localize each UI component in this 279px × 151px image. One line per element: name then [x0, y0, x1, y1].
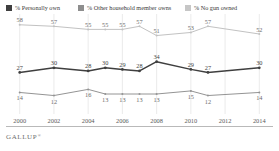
- legend-item-label: % Other household member owns: [87, 4, 171, 12]
- x-axis-tick-label: 2012: [219, 117, 232, 124]
- series-data-point[interactable]: [87, 28, 89, 30]
- data-point-value-label: 55: [119, 21, 125, 28]
- data-point-value-label: 57: [136, 18, 142, 25]
- series-data-point[interactable]: [190, 31, 192, 33]
- series-data-point[interactable]: [104, 28, 106, 30]
- x-axis-tick-label: 2004: [82, 117, 95, 124]
- x-axis-tick-label: 2008: [150, 117, 163, 124]
- square-swatch-icon: [185, 5, 191, 11]
- data-point-value-label: 57: [51, 18, 57, 25]
- chart-footer: GALLUP ®: [6, 133, 41, 145]
- series-data-point[interactable]: [87, 88, 89, 90]
- data-point-value-label: 34: [153, 53, 159, 60]
- data-point-value-label: 51: [153, 27, 159, 34]
- legend-item-personally-own[interactable]: % Personally own: [6, 2, 60, 14]
- data-point-value-label: 15: [188, 93, 194, 100]
- gallup-logo: GALLUP: [6, 133, 37, 141]
- data-point-value-label: 27: [17, 64, 23, 71]
- series-data-point[interactable]: [53, 95, 55, 97]
- series-data-point[interactable]: [104, 67, 107, 70]
- data-point-value-label: 12: [51, 98, 57, 105]
- data-point-value-label: 12: [205, 98, 211, 105]
- data-point-value-label: 55: [102, 21, 108, 28]
- data-point-value-label: 14: [17, 94, 23, 101]
- series-data-point[interactable]: [19, 24, 21, 26]
- x-axis-line: [0, 126, 279, 128]
- data-point-value-label: 57: [205, 18, 211, 25]
- gun-ownership-line-chart: % Personally own % Other household membe…: [0, 0, 279, 151]
- series-data-point[interactable]: [121, 93, 123, 95]
- series-data-point[interactable]: [207, 95, 209, 97]
- x-axis-tick-label: 2010: [184, 117, 197, 124]
- data-point-value-label: 30: [102, 59, 108, 66]
- series-data-point[interactable]: [18, 71, 21, 74]
- data-point-value-label: 13: [102, 96, 108, 103]
- data-point-value-label: 13: [153, 96, 159, 103]
- data-point-value-label: 30: [256, 59, 262, 66]
- legend-item-label: % Personally own: [15, 4, 60, 12]
- x-axis-tick-label: 2000: [13, 117, 26, 124]
- data-point-value-label: 14: [256, 94, 262, 101]
- series-data-point[interactable]: [53, 25, 55, 27]
- data-point-value-label: 28: [136, 62, 142, 69]
- series-data-point[interactable]: [258, 33, 260, 35]
- legend-item-other-household-member-owns[interactable]: % Other household member owns: [78, 2, 171, 14]
- trademark-icon: ®: [38, 133, 41, 139]
- series-data-point[interactable]: [155, 60, 158, 63]
- series-data-point[interactable]: [207, 71, 210, 74]
- data-point-value-label: 30: [51, 59, 57, 66]
- data-point-value-label: 27: [205, 64, 211, 71]
- series-data-point[interactable]: [121, 68, 124, 71]
- x-axis-tick-label: 2002: [48, 117, 61, 124]
- x-axis: 20002002200420062008201020122014: [0, 114, 279, 130]
- square-swatch-icon: [6, 5, 12, 11]
- chart-plot-area: 5857555555575153575227302830292834292730…: [0, 14, 279, 114]
- x-axis-tick-label: 2014: [253, 117, 266, 124]
- data-point-value-label: 13: [136, 96, 142, 103]
- series-data-point[interactable]: [258, 67, 261, 70]
- series-data-point[interactable]: [138, 70, 141, 73]
- data-point-value-label: 13: [119, 96, 125, 103]
- series-data-point[interactable]: [190, 68, 193, 71]
- chart-legend: % Personally own % Other household membe…: [0, 2, 279, 14]
- square-swatch-icon: [78, 5, 84, 11]
- series-data-point[interactable]: [207, 25, 209, 27]
- series-data-point[interactable]: [156, 35, 158, 37]
- data-point-value-label: 16: [85, 91, 91, 98]
- series-data-point[interactable]: [139, 25, 141, 27]
- series-data-point[interactable]: [156, 93, 158, 95]
- series-data-point[interactable]: [190, 90, 192, 92]
- data-point-value-label: 53: [188, 24, 194, 31]
- series-data-point[interactable]: [19, 91, 21, 93]
- data-point-value-label: 55: [85, 21, 91, 28]
- data-point-value-label: 58: [17, 16, 23, 23]
- series-data-point[interactable]: [121, 28, 123, 30]
- series-data-point[interactable]: [104, 93, 106, 95]
- legend-item-label: % No gun owned: [194, 4, 237, 12]
- series-data-point[interactable]: [87, 70, 90, 73]
- x-axis-tick-label: 2006: [116, 117, 129, 124]
- data-point-value-label: 52: [256, 26, 262, 33]
- series-data-point[interactable]: [258, 91, 260, 93]
- data-point-value-label: 29: [188, 61, 194, 68]
- series-data-point[interactable]: [53, 67, 56, 70]
- data-point-value-label: 29: [119, 61, 125, 68]
- series-data-point[interactable]: [139, 93, 141, 95]
- data-point-value-label: 28: [85, 62, 91, 69]
- legend-item-no-gun-owned[interactable]: % No gun owned: [185, 2, 237, 14]
